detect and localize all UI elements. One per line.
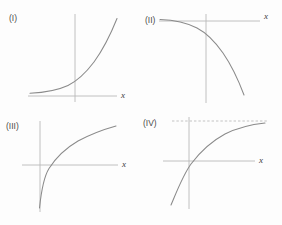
- panel-3-plot: [0, 112, 141, 224]
- panel-3-x-axis-label: x: [122, 160, 126, 169]
- panel-4-label: (IV): [143, 119, 157, 128]
- panel-2: (II) x: [141, 0, 282, 112]
- panel-1-x-axis-label: x: [121, 91, 125, 100]
- panel-3-label: (III): [6, 122, 19, 131]
- panel-2-label: (II): [145, 16, 155, 25]
- panel-1-plot: [0, 0, 141, 112]
- panel-4-curve: [171, 123, 265, 205]
- panel-1-label: (I): [9, 14, 17, 23]
- panel-2-plot: [141, 0, 282, 112]
- panel-3: (III) x: [0, 112, 141, 224]
- panel-4-x-axis-label: x: [259, 156, 263, 165]
- panel-2-curve: [160, 20, 244, 95]
- panel-1: (I) x: [0, 0, 141, 112]
- panel-3-curve: [40, 126, 117, 208]
- panel-2-x-axis-label: x: [264, 12, 268, 21]
- four-graph-figure: (I) x (II) x (III) x (IV) x: [0, 0, 282, 225]
- panel-1-curve: [30, 19, 117, 94]
- panel-4: (IV) x: [141, 112, 282, 224]
- panel-4-plot: [141, 112, 282, 224]
